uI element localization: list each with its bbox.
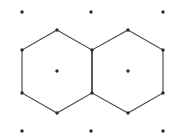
hexagon-vertex-dot [20,48,23,51]
hexagon-vertex-dot [90,48,93,51]
hexagon-vertex-dot [161,48,164,51]
hexagon-vertex-dot [161,91,164,94]
lattice-point-dot [20,10,23,13]
hexagon-vertex-dot [55,28,58,31]
lattice-point-dot [161,129,164,132]
hexagon-vertex-dot [90,91,93,94]
lattice-point-dot [161,10,164,13]
hexagon-center-dot [126,69,129,72]
hexagon-vertex-dot [126,111,129,114]
hexagon-lattice-diagram [0,0,176,137]
hexagon-vertex-dot [20,91,23,94]
lattice-point-dot [20,129,23,132]
lattice-point-dot [89,10,92,13]
lattice-canvas [0,0,176,137]
lattice-point-dot [89,129,92,132]
hexagon-vertex-dot [55,111,58,114]
hexagon-vertex-dot [126,28,129,31]
hexagon-center-dot [55,69,58,72]
